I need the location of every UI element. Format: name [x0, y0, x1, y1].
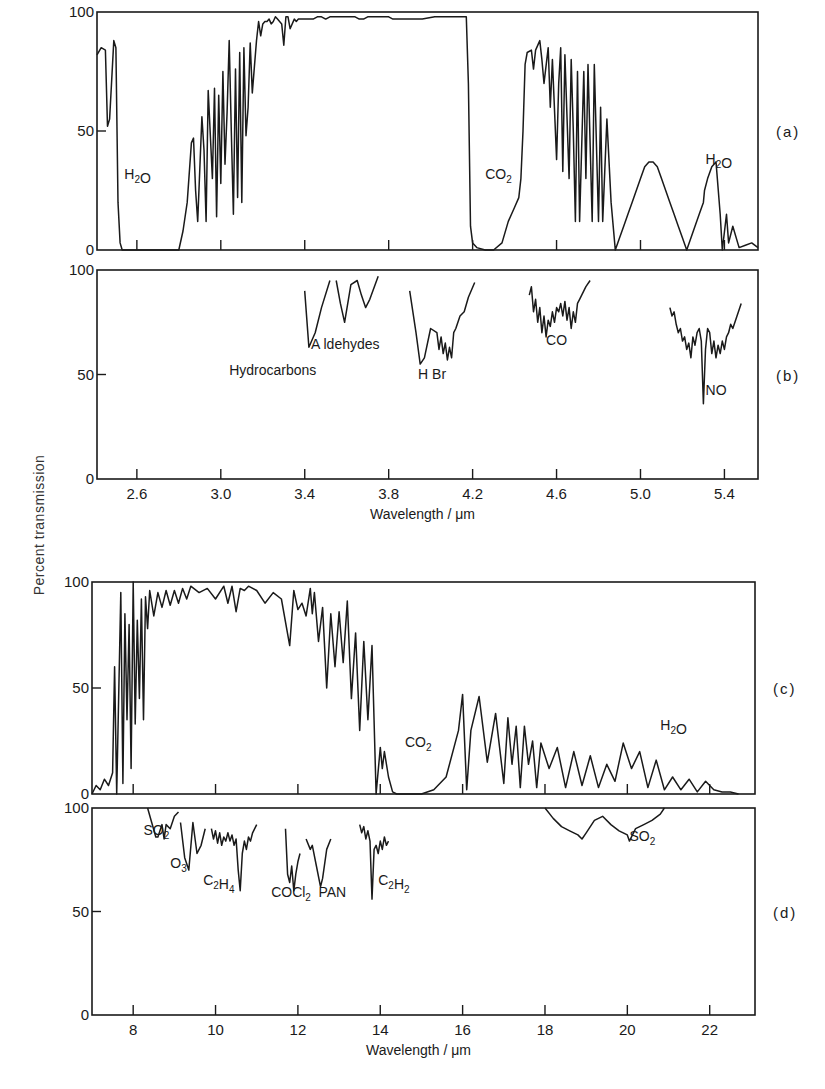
y-tick-label: 50	[72, 679, 89, 696]
species-annotation: PAN	[318, 884, 346, 900]
species-annotation: C2H4	[203, 872, 235, 895]
x-tick-label: 4.2	[462, 485, 483, 502]
species-annotation: NO	[706, 382, 727, 398]
species-annotation: COCl2	[271, 884, 311, 903]
x-tick-label: 14	[372, 1021, 389, 1038]
spectrum-line	[306, 839, 331, 887]
species-annotation: CO2	[485, 166, 512, 185]
panel-label: (d)	[773, 904, 797, 921]
y-axis-label: Percent transmission	[31, 455, 47, 596]
x-tick-label: 5.4	[714, 485, 735, 502]
y-tick-label: 100	[69, 261, 94, 278]
panel-label: (b)	[776, 367, 800, 384]
species-annotation: H2O	[124, 166, 151, 186]
x-tick-label: 8	[129, 1021, 137, 1038]
x-tick-label: 3.8	[378, 485, 399, 502]
spectrum-line	[336, 276, 378, 322]
spectrum-line	[529, 281, 590, 337]
spectrum-line	[97, 17, 758, 250]
y-tick-label: 100	[64, 799, 89, 816]
species-annotation: Hydrocarbons	[229, 362, 316, 378]
y-tick-label: 0	[86, 470, 94, 487]
panel-label: (a)	[776, 123, 800, 140]
spectrum-line	[360, 825, 389, 900]
x-axis-label: Wavelength / μm	[366, 1042, 471, 1058]
y-tick-label: 0	[86, 241, 94, 258]
x-tick-label: 5.0	[630, 485, 651, 502]
species-annotation: A ldehydes	[311, 336, 380, 352]
species-annotation: CO	[546, 332, 567, 348]
x-tick-label: 22	[701, 1021, 718, 1038]
x-axis-label: Wavelength / μm	[370, 506, 475, 522]
x-tick-label: 3.0	[210, 485, 231, 502]
x-tick-label: 10	[207, 1021, 224, 1038]
x-tick-label: 3.4	[294, 485, 315, 502]
spectra-figure: Percent transmission 050100(a)H2OCO2H2O …	[0, 0, 825, 1089]
plot-frame	[97, 12, 758, 250]
panel-label: (c)	[773, 680, 797, 697]
x-tick-label: 16	[454, 1021, 471, 1038]
species-annotation: H2O	[660, 717, 687, 737]
panel-d: 050100810121416182022Wavelength / μm(d)S…	[64, 799, 797, 1058]
y-tick-label: 100	[69, 3, 94, 20]
x-tick-label: 4.6	[546, 485, 567, 502]
y-tick-label: 50	[72, 903, 89, 920]
x-tick-label: 2.6	[126, 485, 147, 502]
species-annotation: CO2	[405, 734, 432, 753]
spectrum-line	[286, 829, 301, 891]
x-tick-label: 20	[619, 1021, 636, 1038]
spectrum-line	[410, 283, 475, 365]
panel-c: 050100(c)CO2H2O	[64, 573, 797, 802]
species-annotation: H Br	[418, 366, 446, 382]
panel-a: 050100(a)H2OCO2H2O	[69, 3, 800, 258]
y-tick-label: 0	[81, 1006, 89, 1023]
species-annotation: H2O	[706, 151, 733, 171]
species-annotation: C2H2	[378, 872, 410, 895]
spectrum-line	[92, 582, 739, 794]
y-tick-label: 100	[64, 573, 89, 590]
y-tick-label: 50	[77, 122, 94, 139]
x-tick-label: 18	[537, 1021, 554, 1038]
x-tick-label: 12	[290, 1021, 307, 1038]
panel-b: 0501002.63.03.43.84.24.65.05.4Wavelength…	[69, 261, 800, 522]
y-tick-label: 50	[77, 366, 94, 383]
species-annotation: SO2	[629, 828, 655, 847]
